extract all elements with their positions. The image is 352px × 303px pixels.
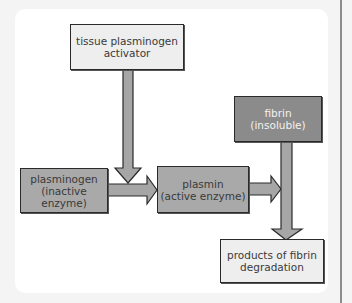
node-label: activator [104, 47, 151, 59]
node-label: degradation [240, 261, 304, 273]
node-label: (inactive enzyme) [21, 185, 107, 209]
arrow-plasminogen-to-plasmin [107, 176, 157, 204]
arrow-tpa-down [115, 70, 141, 183]
node-plasminogen: plasminogen (inactive enzyme) [20, 168, 108, 213]
node-plasmin: plasmin (active enzyme) [157, 166, 249, 213]
node-fibrin: fibrin (insoluble) [234, 96, 322, 142]
node-label: products of fibrin [227, 249, 317, 261]
node-products-of-fibrin-degradation: products of fibrin degradation [220, 239, 324, 283]
node-label: plasminogen [30, 173, 98, 185]
node-label: (insoluble) [250, 119, 305, 131]
node-tissue-plasminogen-activator: tissue plasminogen activator [70, 24, 184, 70]
node-label: tissue plasminogen [76, 35, 178, 47]
node-label: fibrin [264, 107, 291, 119]
arrow-plasmin-to-fibrin-path [248, 176, 281, 202]
node-label: plasmin [182, 178, 223, 190]
node-label: (active enzyme) [161, 190, 246, 202]
